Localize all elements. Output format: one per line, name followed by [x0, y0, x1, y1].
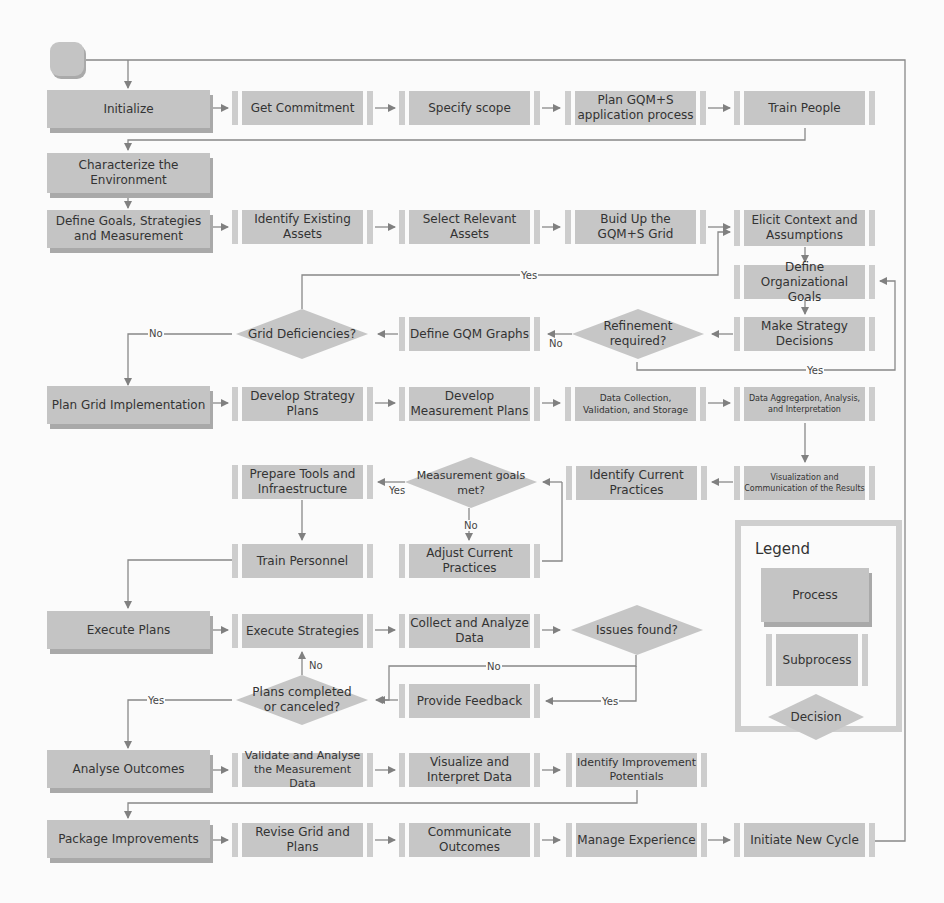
subprocess-bar	[734, 91, 740, 125]
subprocess-define-gqm-graphs[interactable]: Define GQM Graphs	[399, 317, 540, 351]
subprocess-data-collection[interactable]: Data Collection, Validation, and Storage	[565, 387, 706, 421]
subprocess-bar	[534, 317, 540, 351]
process-initialize[interactable]: Initialize	[47, 90, 210, 128]
subprocess-label: Elicit Context and Assumptions	[744, 210, 865, 246]
subprocess-bar	[701, 823, 707, 857]
subprocess-bar	[534, 753, 540, 787]
subprocess-label: Train Personnel	[242, 544, 363, 578]
subprocess-bar	[399, 210, 405, 244]
subprocess-bar	[862, 634, 868, 686]
subprocess-identify-current-practices[interactable]: Identify Current Practices	[566, 466, 707, 500]
subprocess-make-strategy-decisions[interactable]: Make Strategy Decisions	[734, 317, 875, 351]
decision-label: Refinement required?	[598, 319, 678, 349]
subprocess-get-commitment[interactable]: Get Commitment	[232, 91, 373, 125]
subprocess-data-aggregation[interactable]: Data Aggregation, Analysis, and Interpre…	[734, 387, 875, 421]
edge-label-measurement-yes: Yes	[388, 485, 406, 496]
subprocess-elicit-context[interactable]: Elicit Context and Assumptions	[734, 210, 875, 246]
subprocess-plan-gqm-application[interactable]: Plan GQM+S application process	[565, 91, 706, 125]
subprocess-train-personnel[interactable]: Train Personnel	[232, 544, 373, 578]
subprocess-communicate-outcomes[interactable]: Communicate Outcomes	[399, 823, 540, 857]
process-define-goals[interactable]: Define Goals, Strategies and Measurement	[47, 210, 210, 248]
subprocess-select-relevant-assets[interactable]: Select Relevant Assets	[399, 210, 540, 244]
subprocess-label: Define Organizational Goals	[744, 265, 865, 299]
subprocess-label: Collect and Analyze Data	[409, 614, 530, 648]
subprocess-bar	[232, 823, 238, 857]
subprocess-bar	[734, 265, 740, 299]
subprocess-label: Plan GQM+S application process	[575, 91, 696, 125]
subprocess-bar	[565, 210, 571, 244]
subprocess-bar	[399, 544, 405, 578]
subprocess-bar	[399, 91, 405, 125]
subprocess-label: Validate and Analyse the Measurement Dat…	[242, 753, 363, 787]
subprocess-define-organizational-goals[interactable]: Define Organizational Goals	[734, 265, 875, 299]
subprocess-bar	[399, 614, 405, 648]
subprocess-bar	[367, 210, 373, 244]
decision-measurement-goals-met[interactable]: Measurement goals met?	[405, 457, 537, 508]
decision-label: Plans completed or canceled?	[247, 685, 357, 715]
decision-plans-completed[interactable]: Plans completed or canceled?	[236, 675, 368, 725]
subprocess-specify-scope[interactable]: Specify scope	[399, 91, 540, 125]
process-label: Define Goals, Strategies and Measurement	[47, 214, 210, 244]
subprocess-validate-analyse-data[interactable]: Validate and Analyse the Measurement Dat…	[232, 753, 373, 787]
subprocess-visualize-interpret-data[interactable]: Visualize and Interpret Data	[399, 753, 540, 787]
subprocess-bar	[367, 823, 373, 857]
subprocess-label: Data Collection, Validation, and Storage	[575, 387, 696, 421]
subprocess-bar	[399, 823, 405, 857]
subprocess-adjust-current-practices[interactable]: Adjust Current Practices	[399, 544, 540, 578]
subprocess-initiate-new-cycle[interactable]: Initiate New Cycle	[734, 823, 875, 857]
decision-label: Issues found?	[596, 623, 678, 638]
subprocess-identify-existing-assets[interactable]: Identify Existing Assets	[232, 210, 373, 244]
subprocess-build-gqm-grid[interactable]: Buid Up the GQM+S Grid	[565, 210, 706, 244]
subprocess-label: Identify Improvement Potentials	[576, 753, 697, 787]
subprocess-bar	[534, 91, 540, 125]
decision-grid-deficiencies[interactable]: Grid Deficiencies?	[236, 309, 368, 359]
process-package-improvements[interactable]: Package Improvements	[47, 820, 210, 858]
subprocess-label: Visualization and Communication of the R…	[744, 466, 865, 500]
subprocess-bar	[700, 210, 706, 244]
process-analyse-outcomes[interactable]: Analyse Outcomes	[47, 750, 210, 788]
subprocess-execute-strategies[interactable]: Execute Strategies	[232, 614, 373, 648]
subprocess-label: Visualize and Interpret Data	[409, 753, 530, 787]
edge-label-issues-yes: Yes	[601, 696, 619, 707]
subprocess-identify-improvement-potentials[interactable]: Identify Improvement Potentials	[566, 753, 707, 787]
subprocess-bar	[534, 210, 540, 244]
legend-subprocess-sample: Subprocess	[766, 634, 868, 686]
process-plan-grid-implementation[interactable]: Plan Grid Implementation	[47, 386, 210, 424]
subprocess-bar	[869, 91, 875, 125]
edge-label-issues-no: No	[486, 661, 502, 672]
subprocess-train-people[interactable]: Train People	[734, 91, 875, 125]
decision-issues-found[interactable]: Issues found?	[571, 605, 703, 655]
process-label: Characterize the Environment	[47, 158, 210, 188]
edge-label-plans-no: No	[308, 660, 324, 671]
decision-refinement-required[interactable]: Refinement required?	[572, 309, 704, 359]
subprocess-visualization-communication[interactable]: Visualization and Communication of the R…	[734, 466, 875, 500]
subprocess-label: Select Relevant Assets	[409, 210, 530, 244]
subprocess-provide-feedback[interactable]: Provide Feedback	[399, 684, 540, 718]
subprocess-label: Prepare Tools and Infraestructure	[242, 465, 363, 499]
subprocess-develop-measurement-plans[interactable]: Develop Measurement Plans	[399, 387, 540, 421]
edge-label-grid-yes: Yes	[520, 270, 538, 281]
subprocess-prepare-tools[interactable]: Prepare Tools and Infraestructure	[232, 465, 373, 499]
subprocess-manage-experience[interactable]: Manage Experience	[566, 823, 707, 857]
subprocess-bar	[869, 210, 875, 246]
subprocess-bar	[367, 544, 373, 578]
subprocess-bar	[534, 823, 540, 857]
subprocess-bar	[232, 210, 238, 244]
subprocess-collect-analyze-data[interactable]: Collect and Analyze Data	[399, 614, 540, 648]
subprocess-develop-strategy-plans[interactable]: Develop Strategy Plans	[232, 387, 373, 421]
subprocess-bar	[869, 317, 875, 351]
process-characterize-environment[interactable]: Characterize the Environment	[47, 153, 210, 193]
subprocess-label: Execute Strategies	[242, 614, 363, 648]
subprocess-bar	[734, 387, 740, 421]
process-execute-plans[interactable]: Execute Plans	[47, 611, 210, 649]
process-label: Analyse Outcomes	[72, 762, 184, 777]
edge-label-refinement-no: No	[548, 338, 564, 349]
subprocess-bar	[869, 823, 875, 857]
subprocess-bar	[565, 91, 571, 125]
flowchart-canvas: Initialize Characterize the Environment …	[0, 0, 944, 903]
subprocess-bar	[367, 465, 373, 499]
subprocess-label: Identify Current Practices	[576, 466, 697, 500]
process-label: Execute Plans	[87, 623, 171, 638]
subprocess-revise-grid-plans[interactable]: Revise Grid and Plans	[232, 823, 373, 857]
subprocess-bar	[534, 544, 540, 578]
